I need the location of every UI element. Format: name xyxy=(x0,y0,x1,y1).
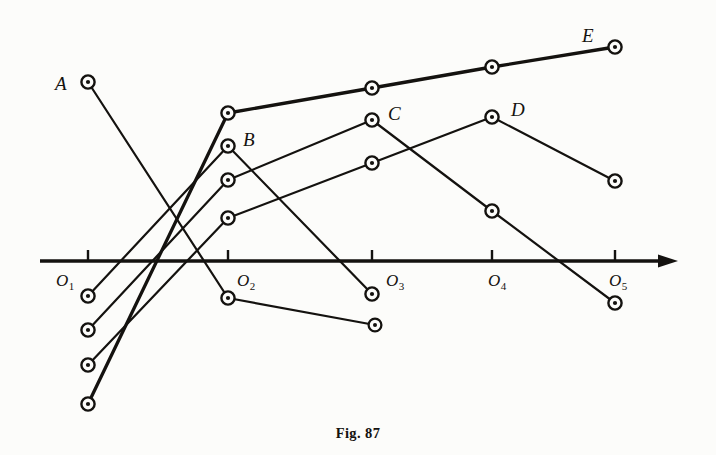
axis-origin-letter: O xyxy=(488,271,500,290)
data-point-center xyxy=(370,118,374,122)
axis-origin-label-2: O2 xyxy=(237,272,255,292)
axis-origin-label-1: O1 xyxy=(56,272,74,292)
data-point-center xyxy=(490,115,494,119)
data-point-center xyxy=(613,301,617,305)
vertex-label-a: A xyxy=(55,74,67,93)
data-point-center xyxy=(613,179,617,183)
series-line-E xyxy=(88,47,615,404)
data-point-center xyxy=(370,292,374,296)
axis-origin-label-5: O5 xyxy=(609,272,627,292)
data-point-center xyxy=(86,363,90,367)
series-line-A xyxy=(88,82,228,298)
data-point-center xyxy=(86,80,90,84)
vertex-label-b: B xyxy=(243,130,255,149)
data-point-center xyxy=(373,323,377,327)
axis-origin-letter: O xyxy=(237,271,249,290)
series-line-C xyxy=(88,120,615,330)
vertex-label-d: D xyxy=(511,100,525,119)
data-point-center xyxy=(370,86,374,90)
figure-87: O1O2O3O4O5 ABCDE Fig. 87 xyxy=(0,0,716,455)
axis-origin-subscript: 5 xyxy=(622,280,628,292)
axis-origin-subscript: 2 xyxy=(250,280,256,292)
data-point-center xyxy=(613,45,617,49)
data-point-center xyxy=(490,65,494,69)
data-point-center xyxy=(490,209,494,213)
axis-origin-subscript: 4 xyxy=(501,280,507,292)
vertex-label-c: C xyxy=(388,104,401,123)
axis-origin-subscript: 1 xyxy=(69,280,75,292)
vertex-label-e: E xyxy=(582,26,594,45)
data-point-center xyxy=(226,216,230,220)
data-point-center xyxy=(86,402,90,406)
data-point-center xyxy=(226,178,230,182)
data-point-center xyxy=(86,294,90,298)
figure-plot xyxy=(0,0,716,455)
axis-origin-letter: O xyxy=(386,271,398,290)
axis-layer xyxy=(40,250,678,268)
axis-arrow-head xyxy=(658,255,678,268)
series-layer xyxy=(88,47,615,404)
axis-origin-label-4: O4 xyxy=(488,272,506,292)
figure-caption: Fig. 87 xyxy=(0,425,716,442)
axis-origin-letter: O xyxy=(56,271,68,290)
data-point-center xyxy=(226,144,230,148)
data-point-center xyxy=(370,161,374,165)
axis-origin-subscript: 3 xyxy=(399,280,405,292)
marker-layer xyxy=(81,40,621,410)
series-line-B-tail xyxy=(228,298,375,325)
data-point-center xyxy=(86,328,90,332)
axis-origin-label-3: O3 xyxy=(386,272,404,292)
axis-origin-letter: O xyxy=(609,271,621,290)
data-point-center xyxy=(226,111,230,115)
data-point-center xyxy=(226,296,230,300)
